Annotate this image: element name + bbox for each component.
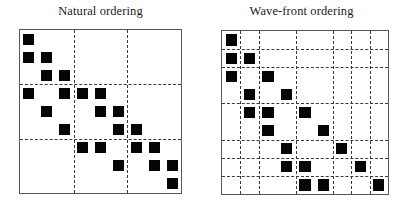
matrix-nonzero-cell <box>167 178 178 189</box>
matrix-nonzero-cell <box>59 124 70 135</box>
panel-natural-ordering: Natural ordering <box>0 0 201 209</box>
matrix-nonzero-cell <box>355 161 366 172</box>
matrix-nonzero-cell <box>373 179 384 190</box>
matrix-nonzero-cell <box>77 142 88 153</box>
matrix-nonzero-cell <box>77 88 88 99</box>
matrix-nonzero-cell <box>226 71 237 82</box>
matrix-nonzero-cell <box>226 53 237 64</box>
matrix-nonzero-cell <box>336 143 347 154</box>
sparsity-figure: Natural ordering Wave-front ordering <box>0 0 403 209</box>
matrix-nonzero-cell <box>149 142 160 153</box>
matrix-nonzero-cell <box>23 52 34 63</box>
block-divider-horizontal <box>222 67 388 68</box>
panel-title-natural: Natural ordering <box>0 4 201 19</box>
block-divider-horizontal <box>222 176 388 177</box>
matrix-nonzero-cell <box>226 34 237 45</box>
block-divider-vertical <box>240 31 241 194</box>
matrix-nonzero-cell <box>23 88 34 99</box>
matrix-nonzero-cell <box>59 70 70 81</box>
matrix-nonzero-cell <box>113 106 124 117</box>
block-divider-vertical <box>333 31 334 194</box>
matrix-natural-ordering <box>19 29 182 194</box>
block-divider-horizontal <box>222 158 388 159</box>
matrix-nonzero-cell <box>318 125 329 136</box>
panel-title-wavefront: Wave-front ordering <box>201 4 402 19</box>
matrix-nonzero-cell <box>299 107 310 118</box>
matrix-nonzero-cell <box>113 160 124 171</box>
block-divider-vertical <box>296 31 297 194</box>
block-divider-vertical <box>259 31 260 194</box>
matrix-wavefront-ordering <box>221 30 389 195</box>
matrix-nonzero-cell <box>167 160 178 171</box>
matrix-nonzero-cell <box>262 125 273 136</box>
matrix-nonzero-cell <box>262 71 273 82</box>
panel-wavefront-ordering: Wave-front ordering <box>201 0 402 209</box>
matrix-nonzero-cell <box>59 88 70 99</box>
matrix-nonzero-cell <box>244 107 255 118</box>
block-divider-horizontal <box>20 84 181 85</box>
matrix-nonzero-cell <box>95 142 106 153</box>
block-divider-vertical <box>127 30 128 193</box>
matrix-nonzero-cell <box>41 52 52 63</box>
block-divider-vertical <box>74 30 75 193</box>
matrix-nonzero-cell <box>299 179 310 190</box>
matrix-nonzero-cell <box>244 53 255 64</box>
matrix-nonzero-cell <box>95 106 106 117</box>
matrix-nonzero-cell <box>41 70 52 81</box>
matrix-nonzero-cell <box>23 34 34 45</box>
block-divider-vertical <box>370 31 371 194</box>
matrix-nonzero-cell <box>113 124 124 135</box>
matrix-nonzero-cell <box>281 161 292 172</box>
block-divider-vertical <box>351 31 352 194</box>
matrix-nonzero-cell <box>41 106 52 117</box>
matrix-nonzero-cell <box>149 160 160 171</box>
matrix-nonzero-cell <box>244 89 255 100</box>
block-divider-horizontal <box>222 103 388 104</box>
block-divider-horizontal <box>222 49 388 50</box>
matrix-nonzero-cell <box>131 124 142 135</box>
matrix-nonzero-cell <box>318 179 329 190</box>
matrix-nonzero-cell <box>299 161 310 172</box>
matrix-nonzero-cell <box>281 89 292 100</box>
block-divider-horizontal <box>222 140 388 141</box>
block-divider-horizontal <box>20 139 181 140</box>
matrix-nonzero-cell <box>131 142 142 153</box>
matrix-nonzero-cell <box>281 143 292 154</box>
matrix-nonzero-cell <box>262 107 273 118</box>
matrix-nonzero-cell <box>95 88 106 99</box>
